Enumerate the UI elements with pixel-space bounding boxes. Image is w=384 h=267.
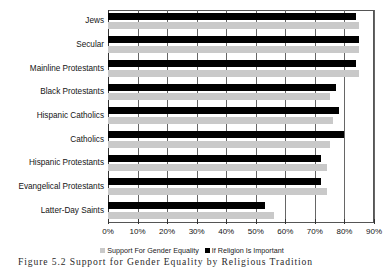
bar-gender-equality [108,188,327,195]
gridline-90pct [374,10,375,223]
bar-gender-equality [108,46,359,53]
category-label: Hispanic Protestants [0,158,104,167]
bar-gender-equality [108,22,359,29]
category-label: Mainline Protestants [0,64,104,73]
figure-caption: Figure 5.2 Support for Gender Equality b… [18,256,313,267]
x-tick-label: 10% [130,227,146,236]
category-label: Latter-Day Saints [0,206,104,215]
bar-religion-important [108,202,265,209]
category-label: Black Protestants [0,87,104,96]
bar-gender-equality [108,93,330,100]
x-tick-label: 80% [336,227,352,236]
x-tick-label: 0% [102,227,114,236]
x-tick-mark [344,219,345,224]
legend-swatch-icon [205,248,210,253]
x-tick-label: 30% [189,227,205,236]
legend-label: Support For Gender Equality [107,246,199,255]
bar-group [108,105,374,129]
bar-gender-equality [108,141,330,148]
bar-gender-equality [108,117,333,124]
x-tick-label: 40% [218,227,234,236]
bar-gender-equality [108,164,327,171]
bar-group [108,176,374,200]
x-tick-mark [374,219,375,224]
legend-item: Support For Gender Equality [100,246,199,255]
bar-group [108,152,374,176]
bar-religion-important [108,155,321,162]
bar-group [108,199,374,223]
legend-label: If Religion Is Important [212,246,284,255]
legend-item: If Religion Is Important [205,246,284,255]
bar-rows [108,10,374,223]
category-label: Evangelical Protestants [0,182,104,191]
legend-swatch-icon [100,248,105,253]
figure-container: JewsSecularMainline ProtestantsBlack Pro… [0,0,384,267]
x-tick-mark [197,219,198,224]
category-label: Hispanic Catholics [0,111,104,120]
x-tick-label: 70% [307,227,323,236]
category-label: Catholics [0,135,104,144]
bar-group [108,57,374,81]
bar-religion-important [108,131,344,138]
x-tick-mark [138,219,139,224]
x-tick-mark [285,219,286,224]
category-label: Jews [0,16,104,25]
x-tick-label: 20% [159,227,175,236]
bar-group [108,81,374,105]
category-axis: JewsSecularMainline ProtestantsBlack Pro… [0,10,108,223]
bar-religion-important [108,84,336,91]
bar-religion-important [108,60,356,67]
x-tick-mark [167,219,168,224]
bar-gender-equality [108,212,274,219]
x-tick-mark [256,219,257,224]
x-tick-label: 60% [277,227,293,236]
bar-religion-important [108,36,359,43]
x-tick-label: 50% [248,227,264,236]
chart-legend: Support For Gender EqualityIf Religion I… [0,246,384,255]
x-axis: 0%10%20%30%40%50%60%70%80%90% [0,224,384,238]
category-label: Secular [0,40,104,49]
bar-religion-important [108,178,321,185]
bar-group [108,34,374,58]
bar-gender-equality [108,70,359,77]
bar-group [108,10,374,34]
bar-religion-important [108,107,339,114]
bar-religion-important [108,13,356,20]
x-tick-mark [315,219,316,224]
x-tick-mark [108,219,109,224]
x-tick-label: 90% [366,227,382,236]
bar-group [108,128,374,152]
x-tick-mark [226,219,227,224]
